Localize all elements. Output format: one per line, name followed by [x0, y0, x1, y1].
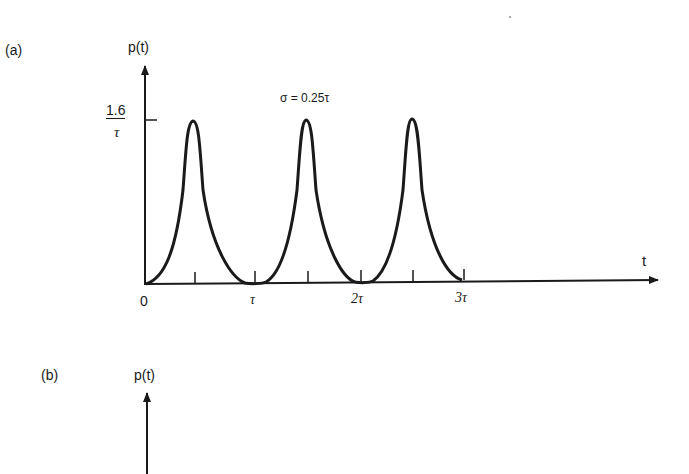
panel-a-ytick-denominator: τ	[114, 125, 119, 140]
x-tick-label-3tau: 3τ	[455, 291, 467, 305]
panel-a-pulse-curve	[146, 119, 462, 284]
scan-speck	[509, 16, 511, 18]
panel-b-ylabel: p(t)	[134, 368, 155, 382]
panel-b-label: (b)	[41, 368, 58, 382]
figure-canvas	[0, 0, 689, 474]
panel-a-ylabel: p(t)	[128, 40, 149, 54]
panel-a-label: (a)	[5, 43, 22, 57]
panel-a-x-axis	[145, 280, 658, 284]
panel-a-xlabel: t	[642, 253, 646, 268]
panel-a-ytick-numerator: 1.6	[106, 103, 125, 119]
x-tick-label-tau: τ	[250, 293, 255, 307]
sigma-annotation: σ = 0.25τ	[280, 92, 329, 104]
x-tick-label-0: 0	[140, 294, 148, 308]
x-tick-label-2tau: 2τ	[351, 292, 363, 306]
